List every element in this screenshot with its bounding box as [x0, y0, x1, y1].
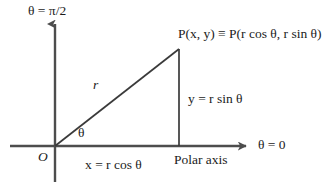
x-expression-label: x = r cos θ — [85, 158, 142, 172]
polar-coordinates-figure: θ = π/2 P(x, y) ≡ P(r cos θ, r sin θ) r … — [0, 0, 334, 182]
theta-pi-over-two-label: θ = π/2 — [28, 4, 66, 18]
point-p-label: P(x, y) ≡ P(r cos θ, r sin θ) — [178, 27, 322, 41]
theta-angle-label: θ — [78, 126, 84, 140]
theta-zero-label: θ = 0 — [258, 138, 286, 152]
origin-label: O — [38, 150, 48, 164]
radius-label: r — [93, 78, 98, 92]
radius-segment — [55, 49, 179, 146]
polar-axis-label: Polar axis — [174, 153, 228, 167]
y-expression-label: y = r sin θ — [188, 92, 243, 106]
